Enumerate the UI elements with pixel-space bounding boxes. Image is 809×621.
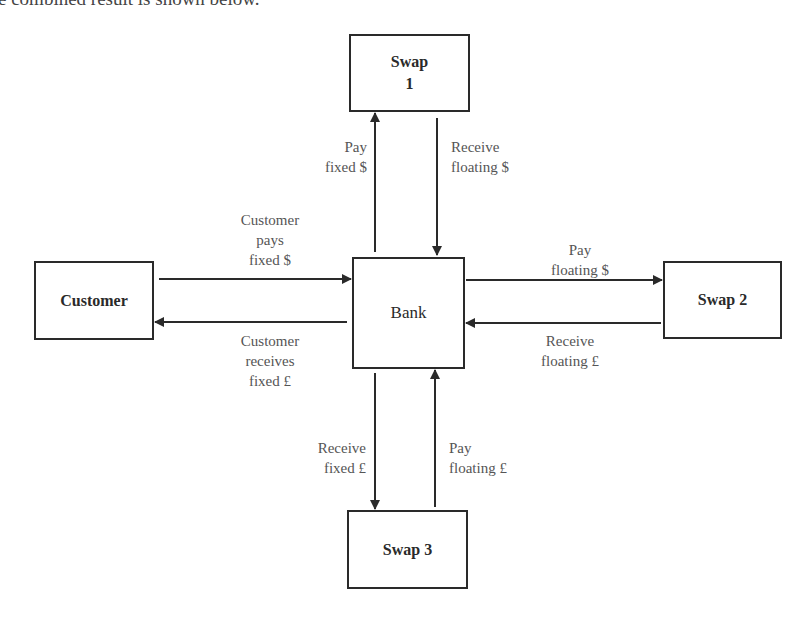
node-customer: Customer: [34, 261, 154, 340]
label-customer-pays-fixed-usd: Customer pays fixed $: [215, 210, 325, 270]
node-swap1: Swap 1: [349, 34, 470, 112]
label-pay-floating-usd: Pay floating $: [525, 240, 635, 280]
label-pay-floating-gbp: Pay floating £: [449, 438, 549, 478]
node-swap2: Swap 2: [663, 261, 782, 339]
label-customer-receives-fixed-gbp: Customer receives fixed £: [215, 331, 325, 391]
label-receive-floating-usd: Receive floating $: [451, 137, 551, 177]
label-receive-floating-gbp: Receive floating £: [515, 331, 625, 371]
label-pay-fixed-usd: Pay fixed $: [300, 137, 367, 177]
node-swap3: Swap 3: [347, 510, 468, 589]
node-bank: Bank: [352, 257, 465, 369]
label-receive-fixed-gbp: Receive fixed £: [280, 438, 366, 478]
